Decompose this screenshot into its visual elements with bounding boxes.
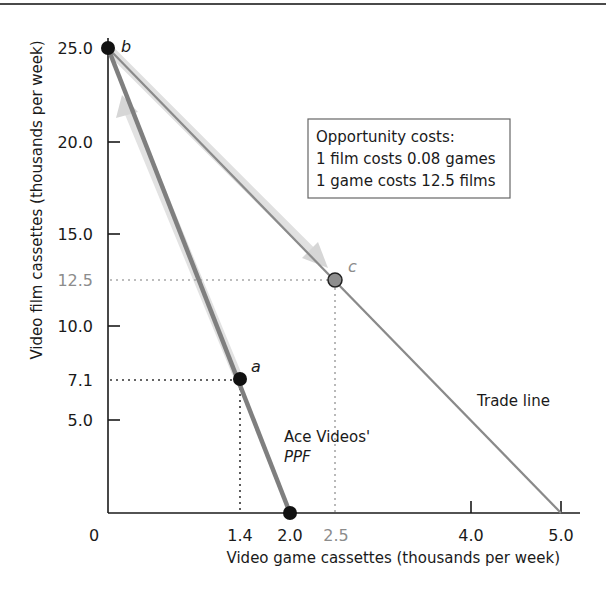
- box-title: Opportunity costs:: [316, 128, 455, 146]
- y-tick-10: 10.0: [57, 317, 93, 336]
- y-tick-5: 5.0: [68, 411, 93, 430]
- x-tick-2: 2.0: [277, 526, 302, 545]
- ppf-label: Ace Videos': [284, 428, 370, 446]
- x-tick-2-5: 2.5: [323, 526, 348, 545]
- chart: b a c 25.0 20.0 15.0 12.5 10.0 7.1 5.0 0…: [0, 0, 606, 595]
- opportunity-cost-box: Opportunity costs: 1 film costs 0.08 gam…: [308, 119, 510, 198]
- point-a: [233, 372, 247, 386]
- y-tick-25: 25.0: [57, 39, 93, 58]
- point-ppf-x-intercept: [283, 506, 297, 520]
- box-line-2: 1 game costs 12.5 films: [316, 172, 496, 190]
- y-tick-12-5: 12.5: [57, 271, 93, 290]
- point-b: [101, 41, 115, 55]
- point-b-label: b: [121, 37, 131, 56]
- highlight-arrows: [112, 52, 328, 372]
- y-axis-title: Video film cassettes (thousands per week…: [28, 40, 46, 359]
- ppf-label-italic: PPF: [284, 448, 311, 466]
- point-a-label: a: [251, 357, 261, 376]
- x-tick-5: 5.0: [548, 526, 573, 545]
- x-tick-1-4: 1.4: [227, 526, 252, 545]
- point-c: [328, 273, 342, 287]
- point-c-label: c: [348, 257, 357, 276]
- box-line-1: 1 film costs 0.08 games: [316, 150, 496, 168]
- y-tick-20: 20.0: [57, 133, 93, 152]
- x-tick-4: 4.0: [458, 526, 483, 545]
- guide-lines: [110, 280, 335, 512]
- y-tick-15: 15.0: [57, 225, 93, 244]
- x-tick-0: 0: [89, 526, 99, 545]
- trade-line-label: Trade line: [476, 392, 550, 410]
- x-axis-title: Video game cassettes (thousands per week…: [227, 549, 560, 567]
- y-tick-7-1: 7.1: [68, 371, 93, 390]
